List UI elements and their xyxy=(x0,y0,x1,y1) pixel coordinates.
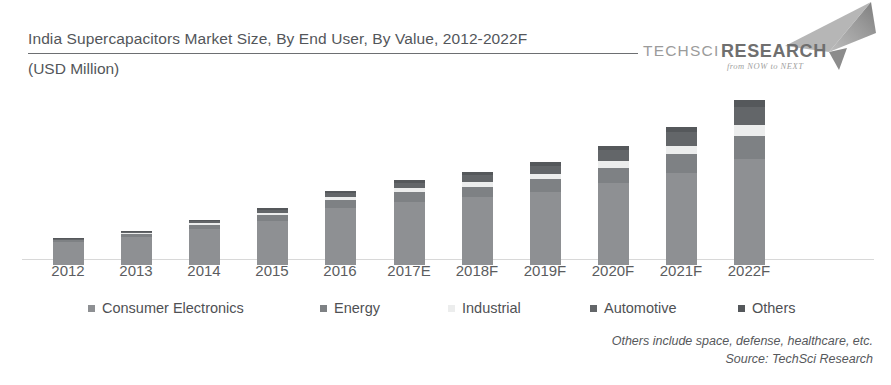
bar-2014[interactable] xyxy=(189,220,220,265)
legend-swatch-icon xyxy=(320,305,327,312)
legend-swatch-icon xyxy=(738,305,745,312)
bar-segment-energy[interactable] xyxy=(394,192,425,201)
legend-item-energy[interactable]: Energy xyxy=(320,300,380,316)
bar-segment-automotive[interactable] xyxy=(734,107,765,124)
bar-segment-consumer_electronics[interactable] xyxy=(394,202,425,265)
bar-segment-industrial[interactable] xyxy=(666,146,697,155)
x-axis-labels: 201220132014201520162017E2018F2019F2020F… xyxy=(0,262,891,290)
chart-footnotes: Others include space, defense, healthcar… xyxy=(612,332,873,368)
source-note: Source: TechSci Research xyxy=(612,350,873,368)
bar-segment-others[interactable] xyxy=(734,100,765,107)
bar-2012[interactable] xyxy=(53,238,84,265)
bar-segment-automotive[interactable] xyxy=(666,132,697,145)
legend-item-others[interactable]: Others xyxy=(738,300,796,316)
bar-segment-energy[interactable] xyxy=(325,200,356,207)
bar-segment-automotive[interactable] xyxy=(462,175,493,182)
bar-2017E[interactable] xyxy=(394,180,425,265)
bar-segment-automotive[interactable] xyxy=(598,150,629,161)
legend-item-industrial[interactable]: Industrial xyxy=(448,300,521,316)
legend-label: Automotive xyxy=(604,300,677,316)
bar-2015[interactable] xyxy=(257,208,288,265)
bar-segment-consumer_electronics[interactable] xyxy=(257,221,288,265)
bar-segment-automotive[interactable] xyxy=(530,166,561,174)
bar-segment-consumer_electronics[interactable] xyxy=(325,208,356,265)
bar-segment-consumer_electronics[interactable] xyxy=(598,183,629,265)
x-axis-label-2022F: 2022F xyxy=(704,262,794,279)
bar-segment-energy[interactable] xyxy=(530,179,561,192)
bar-segment-consumer_electronics[interactable] xyxy=(734,159,765,265)
bar-2016[interactable] xyxy=(325,191,356,265)
legend-label: Energy xyxy=(334,300,380,316)
legend-label: Others xyxy=(752,300,796,316)
others-note: Others include space, defense, healthcar… xyxy=(612,332,873,350)
legend-swatch-icon xyxy=(448,305,455,312)
legend-label: Industrial xyxy=(462,300,521,316)
chart-page: India Supercapacitors Market Size, By En… xyxy=(0,0,891,385)
plot-area xyxy=(0,0,891,265)
chart-legend: Consumer ElectronicsEnergyIndustrialAuto… xyxy=(0,300,891,326)
legend-item-consumer-electronics[interactable]: Consumer Electronics xyxy=(88,300,244,316)
bar-segment-consumer_electronics[interactable] xyxy=(121,237,152,265)
bar-2019F[interactable] xyxy=(530,162,561,265)
bar-segment-consumer_electronics[interactable] xyxy=(189,229,220,265)
bar-2018F[interactable] xyxy=(462,172,493,265)
bar-2013[interactable] xyxy=(121,231,152,265)
bar-segment-industrial[interactable] xyxy=(734,125,765,137)
legend-item-automotive[interactable]: Automotive xyxy=(590,300,677,316)
bar-segment-consumer_electronics[interactable] xyxy=(530,192,561,265)
bar-segment-energy[interactable] xyxy=(462,187,493,198)
bar-segment-energy[interactable] xyxy=(666,154,697,173)
bar-segment-industrial[interactable] xyxy=(598,161,629,168)
bar-segment-energy[interactable] xyxy=(734,136,765,159)
bar-segment-energy[interactable] xyxy=(598,168,629,183)
legend-swatch-icon xyxy=(590,305,597,312)
bar-2021F[interactable] xyxy=(666,127,697,265)
bar-segment-consumer_electronics[interactable] xyxy=(666,173,697,265)
legend-swatch-icon xyxy=(88,305,95,312)
bar-segment-consumer_electronics[interactable] xyxy=(462,197,493,265)
bar-2022F[interactable] xyxy=(734,100,765,265)
legend-label: Consumer Electronics xyxy=(102,300,244,316)
bar-2020F[interactable] xyxy=(598,146,629,265)
